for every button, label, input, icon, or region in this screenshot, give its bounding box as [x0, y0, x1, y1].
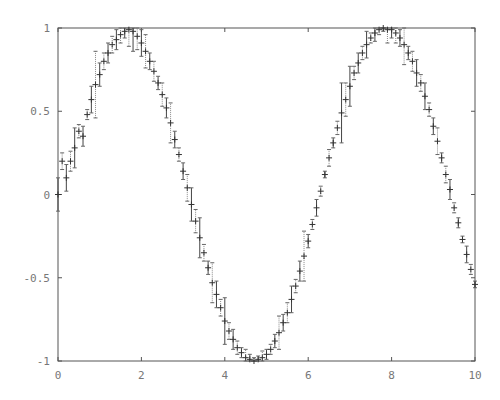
- y-tick-label: 0: [43, 189, 50, 202]
- x-tick-label: 8: [388, 369, 395, 382]
- y-tick-label: 1: [43, 22, 50, 35]
- plot-frame: [58, 28, 475, 361]
- x-tick-label: 0: [55, 369, 62, 382]
- error-bars: [56, 28, 477, 361]
- y-tick-label: -1: [37, 355, 50, 368]
- x-tick-label: 6: [305, 369, 312, 382]
- y-tick-label: -0.5: [24, 272, 51, 285]
- x-tick-label: 4: [221, 369, 228, 382]
- x-tick-label: 10: [468, 369, 481, 382]
- x-tick-label: 2: [138, 369, 145, 382]
- x-axis: 0246810: [55, 28, 482, 382]
- y-axis: 10.50-0.5-1: [24, 22, 476, 368]
- y-tick-label: 0.5: [30, 105, 50, 118]
- chart: 10.50-0.5-1 0246810: [0, 0, 500, 400]
- data-markers: [55, 25, 478, 364]
